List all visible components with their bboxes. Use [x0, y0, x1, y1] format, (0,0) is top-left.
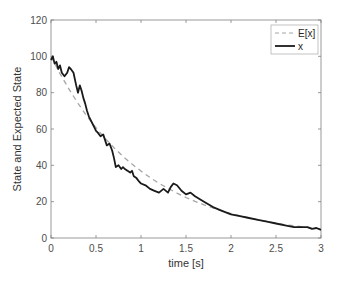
x-tick-label: 3	[318, 243, 324, 254]
y-tick-label: 0	[41, 233, 47, 244]
y-tick-label: 80	[36, 87, 48, 98]
x-tick-label: 2	[228, 243, 234, 254]
x-tick-label: 2.5	[269, 243, 283, 254]
x-tick-label: 0	[48, 243, 54, 254]
y-tick-label: 100	[30, 51, 47, 62]
chart: 00.511.522.53 020406080100120 time [s] S…	[0, 0, 340, 283]
legend: E[x] x	[271, 25, 318, 54]
y-tick-label: 20	[36, 196, 48, 207]
legend-item-state: x	[298, 41, 303, 52]
y-tick-label: 120	[30, 15, 47, 26]
x-axis-label: time [s]	[168, 257, 203, 269]
y-tick-label: 40	[36, 160, 48, 171]
x-tick-label: 1	[138, 243, 144, 254]
x-tick-label: 1.5	[179, 243, 193, 254]
y-axis-label: State and Expected State	[11, 67, 23, 192]
x-tick-label: 0.5	[89, 243, 103, 254]
y-tick-label: 60	[36, 124, 48, 135]
legend-item-expected: E[x]	[298, 28, 315, 39]
